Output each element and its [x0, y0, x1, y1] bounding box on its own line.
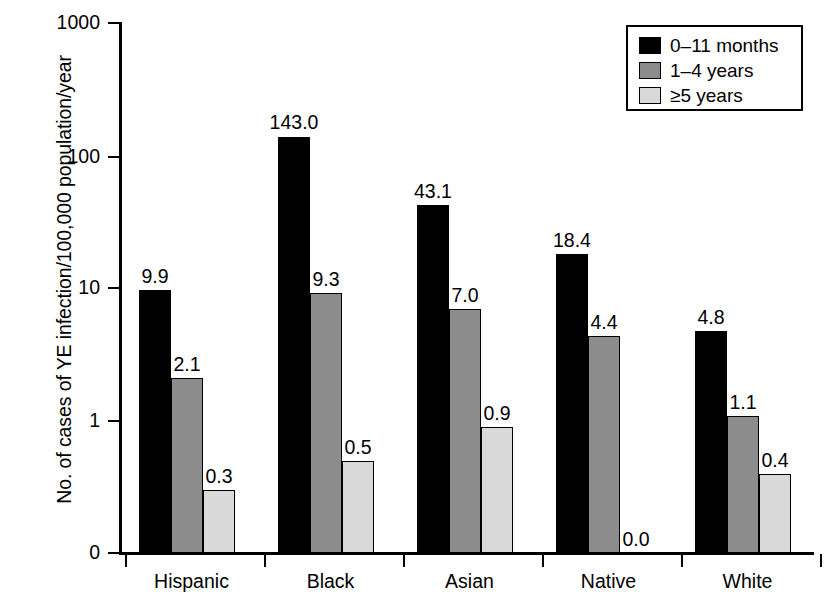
- y-axis-tick: [108, 22, 120, 24]
- y-axis-tick-label: 1: [89, 411, 100, 431]
- y-axis-tick-label: 100: [67, 147, 100, 167]
- bar: [310, 293, 342, 553]
- x-axis-category-label: White: [658, 570, 826, 593]
- bar: [417, 205, 449, 553]
- bar-value-label: 1.1: [711, 391, 775, 414]
- y-axis-title: No. of cases of YE infection/100,000 pop…: [53, 20, 76, 540]
- x-axis-tick: [681, 554, 683, 567]
- bar: [342, 461, 374, 553]
- bar: [203, 490, 235, 553]
- y-axis-tick: [108, 156, 120, 158]
- bar-value-label: 0.3: [187, 465, 251, 488]
- legend-item-label: 1–4 years: [670, 61, 753, 80]
- dark-gray-swatch-icon: [639, 62, 661, 79]
- x-axis-tick: [264, 554, 266, 567]
- bar-value-label: 18.4: [540, 229, 604, 252]
- bar-value-label: 143.0: [262, 111, 326, 134]
- y-axis-tick: [108, 420, 120, 422]
- bar-value-label: 7.0: [433, 284, 497, 307]
- bar: [481, 427, 513, 553]
- bar: [278, 137, 310, 554]
- legend-item-label: 0–11 months: [670, 36, 778, 55]
- y-axis-tick: [108, 287, 120, 289]
- bar: [695, 331, 727, 553]
- bar: [556, 254, 588, 553]
- bar-value-label: 2.1: [155, 353, 219, 376]
- x-axis-tick: [820, 554, 822, 567]
- x-axis-tick: [542, 554, 544, 567]
- y-axis-tick: [108, 552, 120, 554]
- y-axis-tick-label: 1000: [57, 13, 100, 33]
- legend: 0–11 months 1–4 years ≥5 years: [626, 25, 803, 111]
- bar-value-label: 0.9: [465, 402, 529, 425]
- x-axis-tick: [125, 554, 127, 567]
- bar-value-label: 9.9: [123, 265, 187, 288]
- legend-item: 0–11 months: [639, 33, 801, 57]
- bar: [727, 416, 759, 553]
- y-axis-tick-label: 0: [89, 543, 100, 563]
- legend-item: ≥5 years: [639, 83, 801, 107]
- bar-value-label: 43.1: [401, 180, 465, 203]
- y-axis-tick-label: 10: [78, 278, 100, 298]
- bar: [759, 474, 791, 553]
- bar: [449, 309, 481, 553]
- x-axis-tick: [403, 554, 405, 567]
- legend-item: 1–4 years: [639, 58, 801, 82]
- bar-value-label: 4.4: [572, 311, 636, 334]
- bar-value-label: 0.0: [604, 528, 668, 551]
- legend-item-label: ≥5 years: [670, 86, 743, 105]
- bar: [139, 290, 171, 553]
- light-gray-swatch-icon: [639, 87, 661, 104]
- bar-value-label: 9.3: [294, 268, 358, 291]
- bar-value-label: 0.4: [743, 449, 807, 472]
- bar-value-label: 0.5: [326, 436, 390, 459]
- bar: [588, 336, 620, 553]
- bar-value-label: 4.8: [679, 306, 743, 329]
- black-swatch-icon: [639, 37, 661, 54]
